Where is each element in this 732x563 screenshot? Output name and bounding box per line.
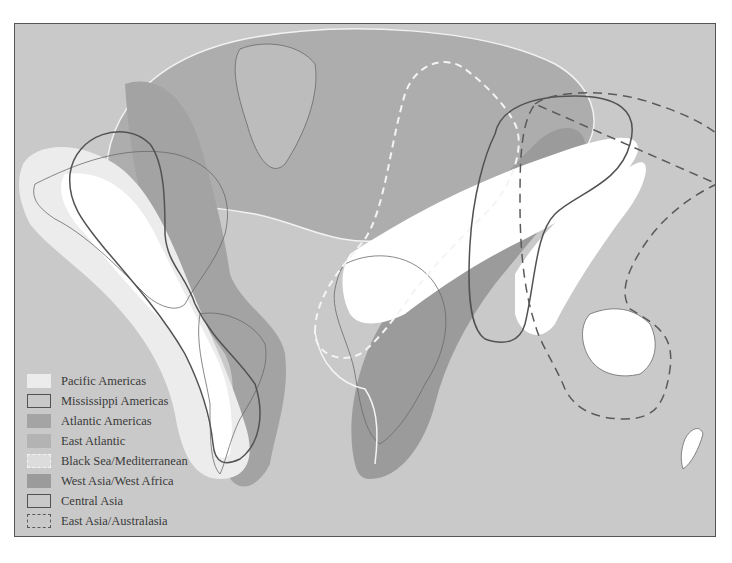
swatch-black-sea-mediterranean — [27, 454, 51, 468]
legend-label: Pacific Americas — [61, 374, 146, 389]
legend-label: Central Asia — [61, 494, 123, 509]
world-map: Pacific Americas Mississippi Americas At… — [14, 23, 716, 537]
legend-label: East Asia/Australasia — [61, 514, 168, 529]
legend-item: Pacific Americas — [27, 371, 188, 391]
swatch-east-asia-australasia — [27, 514, 51, 528]
swatch-central-asia — [27, 494, 51, 508]
swatch-east-atlantic — [27, 434, 51, 448]
legend-item: Black Sea/Mediterranean — [27, 451, 188, 471]
swatch-west-asia-west-africa — [27, 474, 51, 488]
swatch-pacific-americas — [27, 374, 51, 388]
legend-label: East Atlantic — [61, 434, 125, 449]
legend-label: West Asia/West Africa — [61, 474, 174, 489]
legend-item: East Atlantic — [27, 431, 188, 451]
legend-item: Atlantic Americas — [27, 411, 188, 431]
legend-label: Black Sea/Mediterranean — [61, 454, 188, 469]
legend-label: Mississippi Americas — [61, 394, 168, 409]
legend-label: Atlantic Americas — [61, 414, 152, 429]
legend-item: Mississippi Americas — [27, 391, 188, 411]
legend-item: East Asia/Australasia — [27, 511, 188, 531]
swatch-mississippi-americas — [27, 394, 51, 408]
swatch-atlantic-americas — [27, 414, 51, 428]
legend-item: Central Asia — [27, 491, 188, 511]
map-legend: Pacific Americas Mississippi Americas At… — [27, 371, 188, 531]
legend-item: West Asia/West Africa — [27, 471, 188, 491]
